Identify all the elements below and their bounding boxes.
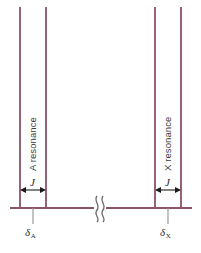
nmr-spectrum-figure: A resonance X resonance J J δA δX xyxy=(0,0,201,253)
delta-a-subscript: A xyxy=(31,232,36,240)
label-delta-a: δA xyxy=(25,226,35,238)
label-x-resonance: X resonance xyxy=(162,117,173,171)
delta-a-symbol: δ xyxy=(25,226,30,238)
label-j-coupling-x: J xyxy=(165,176,170,188)
label-j-coupling-a: J xyxy=(30,176,35,188)
label-delta-x: δX xyxy=(160,226,170,238)
delta-x-subscript: X xyxy=(166,232,171,240)
axis-break-squiggle-icon xyxy=(96,196,104,222)
label-a-resonance: A resonance xyxy=(27,117,38,171)
delta-x-symbol: δ xyxy=(160,226,165,238)
